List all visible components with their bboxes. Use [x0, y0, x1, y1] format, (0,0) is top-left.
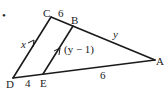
length-label-ea: 6: [100, 69, 106, 81]
length-label-cd: x: [20, 38, 26, 50]
length-label-ba: y: [112, 28, 118, 40]
geometry-diagram: • C B A D E 6 y x (y − 1) 4 6: [0, 0, 168, 96]
vertex-label-d: D: [6, 78, 14, 90]
vertex-label-a: A: [156, 55, 164, 67]
parallel-arrow-icon: [28, 40, 34, 47]
length-label-cb: 6: [58, 7, 64, 19]
edge-d-a: [13, 60, 155, 78]
vertex-label-b: B: [71, 14, 78, 26]
length-label-be: (y − 1): [64, 43, 94, 56]
vertex-label-e: E: [40, 77, 47, 89]
vertex-label-c: C: [43, 7, 50, 19]
length-label-de: 4: [25, 77, 31, 89]
bullet-marker: •: [2, 9, 6, 21]
